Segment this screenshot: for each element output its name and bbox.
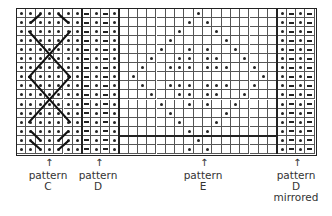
arrow-up-icon: ↑ — [200, 158, 208, 168]
pattern-label-d: D — [68, 181, 128, 192]
chart-border — [16, 8, 317, 156]
pattern-label-e: E — [173, 181, 233, 192]
pattern-label-dm: mirrored — [266, 192, 326, 203]
section-divider — [276, 9, 278, 154]
knitting-chart — [17, 9, 315, 154]
arrow-up-icon: ↑ — [45, 158, 53, 168]
arrow-up-icon: ↑ — [293, 158, 301, 168]
section-divider — [118, 9, 120, 154]
repeat-line — [119, 135, 277, 137]
section-divider — [81, 9, 83, 154]
arrow-up-icon: ↑ — [95, 158, 103, 168]
